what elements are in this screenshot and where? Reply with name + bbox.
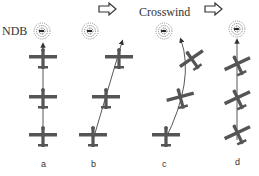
ndb-crosswind-diagram: NDB Crosswind a b c — [0, 0, 259, 176]
airplane-icon — [221, 84, 255, 115]
panel-label-d: d — [235, 157, 240, 167]
panel-b: b — [79, 23, 133, 169]
ndb-beacon-icon — [229, 21, 245, 37]
airplane-icon — [29, 48, 57, 69]
panel-c: c — [152, 23, 210, 169]
airplane-icon — [152, 126, 180, 147]
ndb-beacon-icon — [156, 23, 172, 39]
ndb-label: NDB — [2, 24, 27, 38]
panel-label-a: a — [41, 159, 46, 169]
airplane-icon — [92, 88, 120, 109]
airplane-icon — [79, 126, 107, 147]
airplane-icon — [29, 88, 57, 109]
panel-d: d — [221, 21, 255, 167]
panel-label-c: c — [162, 159, 167, 169]
airplane-icon — [175, 43, 210, 76]
crosswind-label: Crosswind — [139, 5, 190, 19]
airplane-icon — [221, 50, 255, 81]
track-curve — [165, 40, 185, 140]
airplane-icon — [164, 85, 196, 113]
panel-label-b: b — [91, 159, 96, 169]
airplane-icon — [221, 119, 255, 150]
airplane-icon — [29, 126, 57, 147]
ndb-beacon-icon — [34, 23, 50, 39]
airplane-icon — [105, 48, 133, 69]
ndb-beacon-icon — [82, 23, 98, 39]
wind-arrow-icon-1 — [99, 3, 116, 15]
panel-a: a — [29, 23, 57, 169]
wind-arrow-icon-2 — [205, 3, 222, 15]
